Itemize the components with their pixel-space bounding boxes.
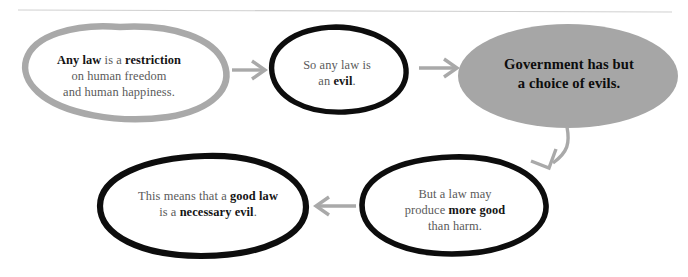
node-any-law-restriction-label: Any law is a restrictionon human freedom… [28,52,210,100]
arrow-n2-to-n3 [419,59,457,77]
top-rule [18,10,672,12]
node-law-may-produce-more-good-label: But a law mayproduce more goodthan harm. [380,186,530,234]
diagram-artwork [0,0,688,277]
arrow-n3-to-n4 [531,127,568,168]
arrow-n4-to-n5 [316,197,356,215]
arrow-n1-to-n2 [232,61,265,79]
diagram-canvas: Any law is a restrictionon human freedom… [0,0,688,277]
node-good-law-necessary-evil-label: This means that a good lawis a necessary… [112,188,304,220]
node-government-choice-of-evils-label: Government has buta choice of evils. [470,55,668,92]
node-so-any-law-is-an-evil-label: So any law isan evil. [276,57,398,89]
